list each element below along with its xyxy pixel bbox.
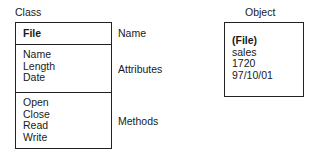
name-annotation: Name: [118, 27, 146, 39]
class-heading: Class: [15, 6, 41, 18]
class-attributes-section: Name Length Date: [16, 44, 111, 93]
object-class-name: (File): [232, 35, 303, 47]
object-value: 1720: [232, 58, 303, 70]
object-content: (File) sales 1720 97/10/01: [225, 23, 303, 81]
method-list: Open Close Read Write: [16, 93, 111, 143]
class-name: File: [16, 23, 111, 40]
object-box: (File) sales 1720 97/10/01: [224, 22, 304, 97]
object-value: 97/10/01: [232, 70, 303, 82]
method-item: Read: [23, 120, 111, 132]
methods-annotation: Methods: [118, 115, 158, 127]
attribute-item: Date: [23, 72, 111, 84]
attribute-list: Name Length Date: [16, 45, 111, 84]
class-box: File Name Length Date Open Close Read Wr…: [15, 22, 112, 149]
class-methods-section: Open Close Read Write: [16, 92, 111, 148]
attribute-item: Name: [23, 49, 111, 61]
attributes-annotation: Attributes: [118, 63, 162, 75]
method-item: Open: [23, 97, 111, 109]
class-name-section: File: [16, 23, 111, 45]
object-heading: Object: [245, 6, 275, 18]
method-item: Write: [23, 132, 111, 144]
